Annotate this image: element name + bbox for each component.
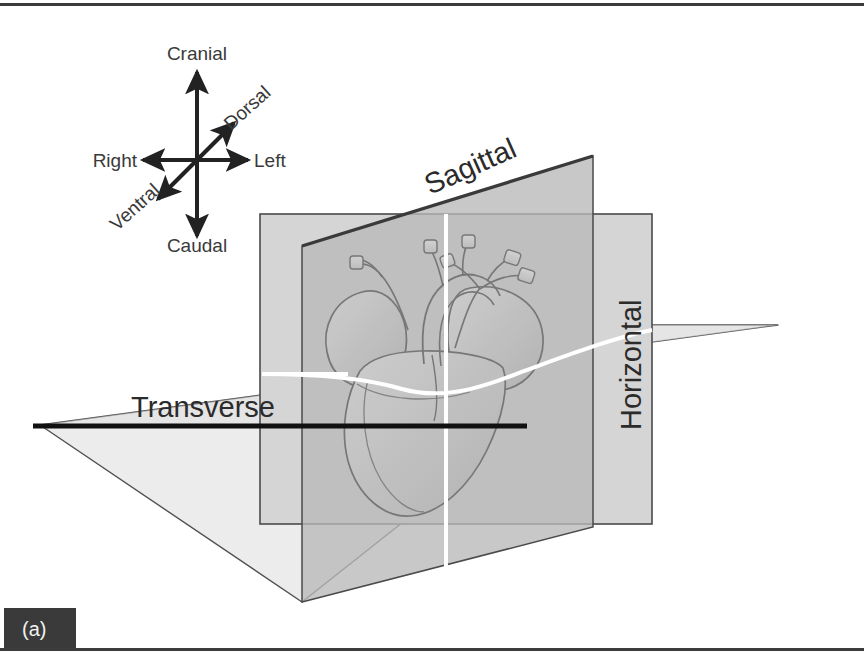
axis-label-right: Right	[93, 150, 138, 171]
bottom-frame-rule	[0, 648, 864, 651]
axis-label-left: Left	[254, 150, 286, 171]
figure-panel: Transverse Sagittal Horizontal Cranial C…	[0, 0, 864, 661]
top-frame-rule	[0, 3, 864, 6]
axis-label-cranial: Cranial	[167, 43, 227, 64]
anatomical-planes-diagram: Transverse Sagittal Horizontal Cranial C…	[0, 0, 864, 661]
plane-label-horizontal: Horizontal	[615, 299, 647, 430]
panel-letter-text: (a)	[22, 618, 46, 640]
panel-letter-badge: (a)	[4, 608, 76, 648]
axis-label-caudal: Caudal	[167, 235, 227, 256]
plane-label-transverse: Transverse	[131, 391, 275, 423]
